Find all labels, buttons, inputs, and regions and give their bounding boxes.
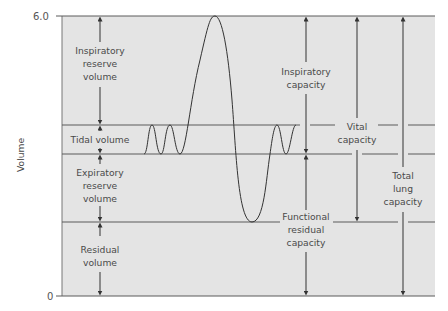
svg-text:Inspiratory: Inspiratory xyxy=(75,45,125,56)
svg-text:lung: lung xyxy=(393,183,413,194)
svg-text:capacity: capacity xyxy=(287,79,326,90)
svg-text:reserve: reserve xyxy=(83,180,118,191)
lung-volume-diagram: 6.0 0 Volume Inspiratory reserve volume … xyxy=(0,0,448,311)
svg-text:capacity: capacity xyxy=(338,134,377,145)
svg-text:residual: residual xyxy=(288,224,324,235)
svg-text:volume: volume xyxy=(83,257,117,268)
svg-text:Functional: Functional xyxy=(282,211,329,222)
y-tick-max: 6.0 xyxy=(33,11,49,22)
svg-text:capacity: capacity xyxy=(287,237,326,248)
svg-text:reserve: reserve xyxy=(83,58,118,69)
svg-text:Expiratory: Expiratory xyxy=(76,167,124,178)
frc-label: Functional residual capacity xyxy=(282,211,329,248)
svg-text:Vital: Vital xyxy=(347,121,367,132)
svg-text:capacity: capacity xyxy=(384,196,423,207)
svg-text:Total: Total xyxy=(391,170,413,181)
svg-text:Residual: Residual xyxy=(81,244,120,255)
tv-label: Tidal volume xyxy=(70,134,130,145)
svg-text:volume: volume xyxy=(83,193,117,204)
y-axis-label: Volume xyxy=(15,137,26,172)
svg-text:volume: volume xyxy=(83,71,117,82)
svg-text:Inspiratory: Inspiratory xyxy=(281,66,331,77)
y-tick-zero: 0 xyxy=(47,291,53,302)
